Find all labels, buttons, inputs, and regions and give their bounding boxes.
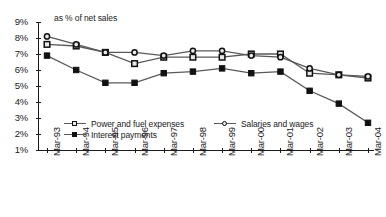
data-point-marker (132, 80, 137, 85)
data-point-marker (219, 48, 224, 53)
data-point-marker (44, 53, 49, 58)
data-point-marker (249, 71, 254, 76)
data-point-marker (278, 55, 283, 60)
legend-label: Interest payments (86, 130, 157, 140)
legend-marker-icon (64, 118, 86, 129)
data-point-marker (307, 88, 312, 93)
legend-row: Power and fuel expensesSalaries and wage… (64, 118, 316, 129)
series-line (44, 53, 370, 126)
data-point-marker (132, 50, 137, 55)
data-point-marker (307, 66, 312, 71)
data-point-marker (365, 74, 370, 79)
series-polyline (47, 56, 368, 123)
legend-marker-icon (64, 129, 86, 140)
data-point-marker (73, 67, 78, 72)
legend-item[interactable]: Salaries and wages (214, 118, 313, 129)
data-point-marker (219, 66, 224, 71)
data-point-marker (365, 120, 370, 125)
data-point-marker (103, 50, 108, 55)
data-point-marker (249, 53, 254, 58)
data-point-marker (336, 101, 341, 106)
data-point-marker (278, 69, 283, 74)
legend-marker-icon (214, 118, 236, 129)
data-point-marker (74, 42, 79, 47)
data-point-marker (161, 71, 166, 76)
data-point-marker (190, 69, 195, 74)
line-chart: as % of net sales 9%8%7%6%5%4%3%2%1% Mar… (0, 0, 386, 217)
data-point-marker (103, 80, 108, 85)
data-point-marker (44, 34, 49, 39)
data-point-marker (190, 54, 196, 60)
data-point-marker (132, 61, 138, 67)
legend-item[interactable]: Interest payments (64, 129, 157, 140)
legend-label: Salaries and wages (236, 119, 313, 129)
chart-legend: Power and fuel expensesSalaries and wage… (64, 118, 316, 140)
series-line (44, 42, 371, 81)
data-point-marker (161, 53, 166, 58)
data-point-marker (219, 54, 225, 60)
plot-area (0, 0, 386, 217)
data-point-marker (336, 72, 341, 77)
legend-item[interactable]: Power and fuel expenses (64, 118, 184, 129)
data-point-marker (190, 48, 195, 53)
data-point-marker (44, 42, 50, 48)
legend-row: Interest payments (64, 129, 316, 140)
series-line (44, 34, 370, 79)
legend-label: Power and fuel expenses (86, 119, 184, 129)
